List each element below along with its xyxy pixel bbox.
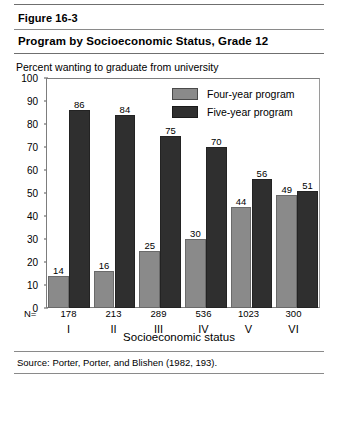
bar-four-year-VI: 49 xyxy=(276,195,297,308)
x-tick-label-I: I xyxy=(67,323,70,335)
bar-value-label: 70 xyxy=(211,136,222,147)
n-value-VI: 300 xyxy=(286,308,302,319)
bar-value-label: 25 xyxy=(144,240,155,251)
legend-swatch-four-year-icon xyxy=(172,88,198,100)
source-note: Source: Porter, Porter, and Blishen (198… xyxy=(14,352,324,373)
bar-value-label: 44 xyxy=(236,196,247,207)
y-tick-label: 40 xyxy=(27,211,38,222)
y-tick-label: 50 xyxy=(27,188,38,199)
bar-value-label: 56 xyxy=(257,168,268,179)
legend-item-five-year: Five-year program xyxy=(172,106,295,118)
figure-number: Figure 16-3 xyxy=(14,5,324,29)
bar-value-label: 30 xyxy=(190,228,201,239)
x-tick-label-IV: IV xyxy=(198,323,208,335)
bar-five-year-VI: 51 xyxy=(297,191,318,308)
pre-source-spacer xyxy=(14,343,324,351)
bar-five-year-III: 75 xyxy=(160,136,181,309)
legend-label-five-year: Five-year program xyxy=(207,106,293,118)
y-tick-label: 90 xyxy=(27,96,38,107)
n-value-IV: 536 xyxy=(196,308,212,319)
x-axis-category-row: IIIIIIIVVVI xyxy=(14,323,320,336)
x-tick-label-II: II xyxy=(110,323,116,335)
bar-five-year-II: 84 xyxy=(115,115,136,308)
bar-four-year-IV: 30 xyxy=(185,239,206,308)
n-prefix-label: N= xyxy=(24,308,36,319)
bar-value-label: 49 xyxy=(281,184,292,195)
y-tick-label: 70 xyxy=(27,142,38,153)
bar-four-year-II: 16 xyxy=(94,271,115,308)
x-tick-label-VI: VI xyxy=(288,323,298,335)
chart-area: 0102030405060708090100 14861684257530704… xyxy=(14,78,324,330)
legend-label-four-year: Four-year program xyxy=(207,88,295,100)
n-values-row: N= 1782132895361023300 xyxy=(14,308,320,321)
y-axis-ticks: 0102030405060708090100 xyxy=(14,78,44,308)
bar-five-year-I: 86 xyxy=(69,110,90,308)
legend-item-four-year: Four-year program xyxy=(172,88,295,100)
figure-title: Program by Socioeconomic Status, Grade 1… xyxy=(14,30,324,53)
y-tick-label: 30 xyxy=(27,234,38,245)
y-tick-label: 10 xyxy=(27,280,38,291)
bar-four-year-V: 44 xyxy=(231,207,252,308)
n-value-I: 178 xyxy=(61,308,77,319)
source-bottom-rule xyxy=(14,373,324,374)
legend: Four-year program Five-year program xyxy=(172,88,295,124)
n-value-V: 1023 xyxy=(238,308,259,319)
bar-value-label: 14 xyxy=(53,265,64,276)
x-tick-label-V: V xyxy=(245,323,252,335)
n-value-III: 289 xyxy=(151,308,167,319)
bar-five-year-IV: 70 xyxy=(206,147,227,308)
bar-value-label: 51 xyxy=(302,180,313,191)
y-axis-title: Percent wanting to graduate from univers… xyxy=(14,54,324,77)
y-tick-label: 80 xyxy=(27,119,38,130)
bar-value-label: 75 xyxy=(165,125,176,136)
figure-page: Figure 16-3 Program by Socioeconomic Sta… xyxy=(0,0,338,424)
bar-four-year-I: 14 xyxy=(48,276,69,308)
bar-value-label: 86 xyxy=(74,99,85,110)
legend-swatch-five-year-icon xyxy=(172,106,198,118)
bar-four-year-III: 25 xyxy=(139,251,160,309)
x-tick-label-III: III xyxy=(154,323,163,335)
y-tick-label: 20 xyxy=(27,257,38,268)
bar-value-label: 16 xyxy=(99,260,110,271)
bar-value-label: 84 xyxy=(120,104,131,115)
y-tick-label: 100 xyxy=(21,73,38,84)
bar-five-year-V: 56 xyxy=(252,179,273,308)
n-value-II: 213 xyxy=(106,308,122,319)
y-tick-label: 60 xyxy=(27,165,38,176)
